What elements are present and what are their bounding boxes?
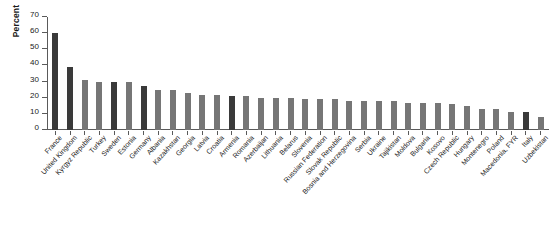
bar <box>405 103 411 130</box>
bar <box>361 101 367 130</box>
bar-slot <box>122 17 137 130</box>
y-axis-tick-label: 10 <box>30 107 39 116</box>
bar <box>508 112 514 130</box>
bar <box>111 82 117 130</box>
bar <box>258 98 264 130</box>
bar <box>229 96 235 130</box>
y-axis-tick-label: 40 <box>30 58 39 67</box>
bar-slot <box>63 17 78 130</box>
y-axis-tick: 60 <box>42 32 47 33</box>
bar <box>317 99 323 130</box>
bar-slot <box>327 17 342 130</box>
bar <box>332 99 338 130</box>
bar <box>464 106 470 130</box>
y-axis-tick-label: 20 <box>30 91 39 100</box>
bar-slot <box>533 17 548 130</box>
bar-slot <box>77 17 92 130</box>
y-axis-tick-label: 30 <box>30 75 39 84</box>
bar <box>141 86 147 130</box>
bar <box>155 90 161 130</box>
bar-slot <box>357 17 372 130</box>
bar-slot <box>489 17 504 130</box>
bar-slot <box>386 17 401 130</box>
bar-slot <box>195 17 210 130</box>
y-axis-tick: 20 <box>42 97 47 98</box>
y-axis-tick: 40 <box>42 64 47 65</box>
bar <box>493 109 499 130</box>
bar <box>288 98 294 130</box>
bar-slot <box>342 17 357 130</box>
bar-slot <box>416 17 431 130</box>
bar-slot <box>474 17 489 130</box>
bar-slot <box>401 17 416 130</box>
y-axis-tick: 50 <box>42 48 47 49</box>
bar-slot <box>92 17 107 130</box>
bar-slot <box>460 17 475 130</box>
y-axis-tick: 70 <box>42 16 47 17</box>
bar-slot <box>504 17 519 130</box>
bar-slot <box>283 17 298 130</box>
bar-slot <box>224 17 239 130</box>
bar-slot <box>151 17 166 130</box>
bar-slot <box>254 17 269 130</box>
bar <box>420 103 426 130</box>
y-axis-tick: 10 <box>42 113 47 114</box>
plot-area: 010203040506070 <box>47 15 549 132</box>
y-axis-title: Percent <box>9 0 23 56</box>
x-axis-labels: FranceUnited KingdomKyrgyz RepublicTurke… <box>48 134 548 233</box>
bar <box>170 90 176 130</box>
y-axis-tick: 0 <box>42 129 47 130</box>
bar-slot <box>48 17 63 130</box>
bar <box>273 98 279 130</box>
bar-slot <box>519 17 534 130</box>
bar <box>126 82 132 130</box>
bar-slot <box>107 17 122 130</box>
bar <box>302 99 308 130</box>
bar-slot <box>371 17 386 130</box>
bar <box>52 33 58 130</box>
bar <box>185 93 191 130</box>
bar-slot <box>298 17 313 130</box>
bar-slot <box>239 17 254 130</box>
bar-slot <box>269 17 284 130</box>
y-axis-tick-label: 60 <box>30 26 39 35</box>
y-axis-tick: 30 <box>42 81 47 82</box>
bar-slot <box>180 17 195 130</box>
bar-chart: Percent 010203040506070 FranceUnited Kin… <box>0 0 556 233</box>
bar-slot <box>430 17 445 130</box>
bar <box>479 109 485 130</box>
y-axis-tick-label: 0 <box>35 123 39 132</box>
bar <box>214 95 220 131</box>
bar-slot <box>166 17 181 130</box>
bar <box>376 101 382 130</box>
bar <box>435 103 441 130</box>
bar <box>96 82 102 130</box>
y-axis-tick-label: 50 <box>30 42 39 51</box>
bar <box>243 96 249 130</box>
y-axis-tick-label: 70 <box>30 10 39 19</box>
bar <box>523 112 529 130</box>
bar-slot <box>445 17 460 130</box>
bar-series <box>48 17 548 130</box>
bar-slot <box>313 17 328 130</box>
bar <box>538 117 544 130</box>
bar-slot <box>136 17 151 130</box>
bar <box>199 95 205 131</box>
bar <box>391 101 397 130</box>
bar <box>82 80 88 130</box>
bar-slot <box>210 17 225 130</box>
bar <box>449 104 455 130</box>
bar <box>67 67 73 130</box>
bar <box>346 101 352 130</box>
